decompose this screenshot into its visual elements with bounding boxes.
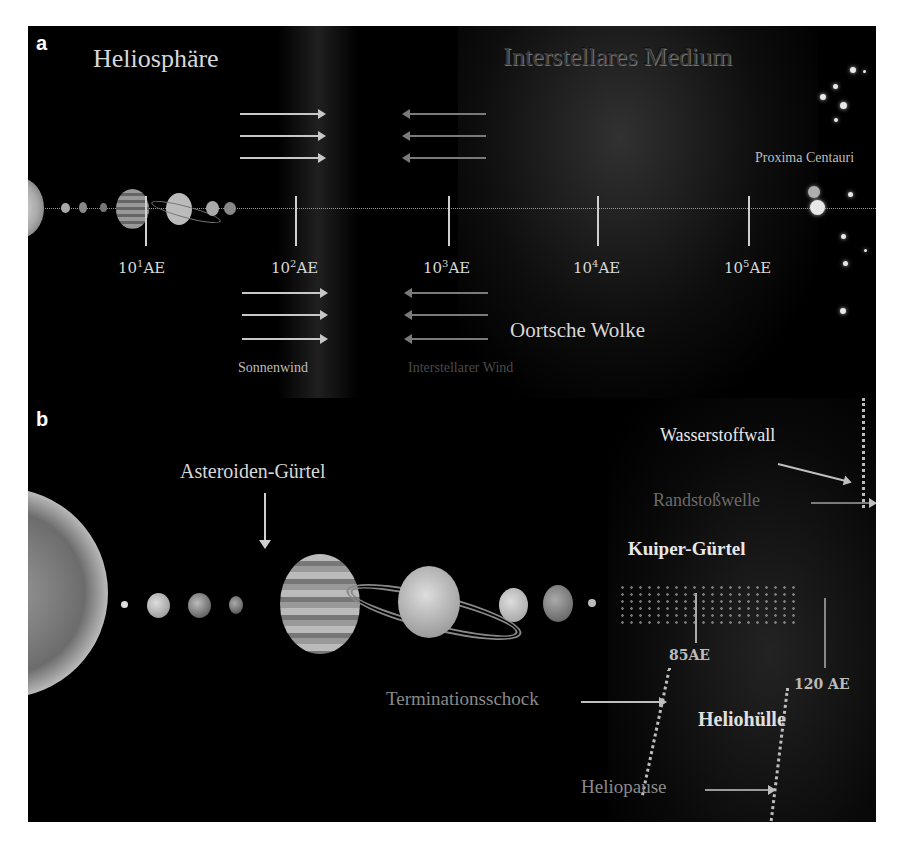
planet-neptune bbox=[224, 202, 236, 215]
interstellar-wind-arrow bbox=[408, 157, 486, 159]
tick-10-5 bbox=[748, 196, 750, 246]
star bbox=[863, 70, 866, 73]
solar-system-figure: a Heliosphäre Interstellares Medium 101A… bbox=[28, 26, 876, 822]
interstellar-medium-title: Interstellares Medium bbox=[503, 42, 732, 72]
planet-mercury bbox=[61, 203, 70, 213]
heliopause-label: Heliopause bbox=[581, 776, 666, 798]
termination-shock-label: Terminationsschock bbox=[386, 688, 539, 710]
tick-label-10-1: 101AE bbox=[118, 258, 165, 277]
star bbox=[850, 67, 856, 73]
planet-venus bbox=[79, 202, 87, 213]
alpha-centauri-star bbox=[808, 186, 820, 198]
tick-10-2 bbox=[295, 196, 297, 246]
kuiper-belt-label: Kuiper-Gürtel bbox=[628, 538, 746, 560]
proxima-centauri-star bbox=[810, 200, 825, 215]
asteroid-belt-arrow bbox=[264, 493, 266, 543]
star bbox=[848, 192, 853, 197]
star bbox=[820, 94, 826, 100]
star bbox=[843, 261, 848, 266]
planet-mars bbox=[229, 596, 243, 614]
panel-b-heliosphere-structure: b Asteroiden-Gürtel Wasserstoffwall Rand… bbox=[28, 398, 876, 822]
tick-label-10-4: 104AE bbox=[573, 258, 620, 277]
heliopause-arrow bbox=[705, 789, 770, 791]
solar-wind-arrow bbox=[240, 113, 320, 115]
planet-mercury bbox=[121, 601, 128, 608]
planet-uranus bbox=[206, 201, 219, 216]
interstellar-wind-arrow bbox=[408, 135, 486, 137]
solar-wind-arrow bbox=[242, 292, 322, 294]
panel-a-heliosphere-scale: a Heliosphäre Interstellares Medium 101A… bbox=[28, 26, 876, 398]
interstellar-wind-arrow bbox=[410, 314, 488, 316]
planet-uranus bbox=[499, 588, 528, 622]
tick-label-10-5: 105AE bbox=[724, 258, 771, 277]
interstellar-wind-arrow bbox=[410, 292, 488, 294]
star bbox=[840, 102, 847, 109]
star bbox=[834, 118, 838, 122]
distance-120-au: 120 AE bbox=[794, 676, 850, 692]
interstellar-wind-arrow bbox=[410, 338, 488, 340]
panel-letter-a: a bbox=[36, 32, 47, 55]
solar-wind-arrow bbox=[240, 135, 320, 137]
sun bbox=[28, 178, 44, 238]
termination-shock-distance-tick bbox=[695, 593, 697, 643]
heliopause-distance-tick bbox=[824, 598, 826, 668]
hydrogen-wall-label: Wasserstoffwall bbox=[660, 425, 775, 446]
interstellar-wind-label: Interstellarer Wind bbox=[408, 360, 513, 376]
oort-cloud-label: Oortsche Wolke bbox=[510, 318, 645, 343]
kuiper-belt-objects bbox=[618, 584, 798, 624]
solar-wind-arrow bbox=[242, 338, 322, 340]
distance-85-au: 85AE bbox=[669, 647, 710, 663]
interstellar-wind-arrow bbox=[408, 113, 486, 115]
star bbox=[833, 84, 838, 89]
planet-earth bbox=[188, 593, 211, 618]
bow-shock-boundary bbox=[862, 398, 865, 508]
star bbox=[840, 308, 846, 314]
heliosheath-label: Heliohülle bbox=[698, 708, 786, 731]
termination-shock-arrow bbox=[581, 701, 661, 703]
tick-label-10-2: 102AE bbox=[271, 258, 318, 277]
planet-pluto bbox=[588, 599, 596, 607]
panel-letter-b: b bbox=[36, 408, 48, 431]
interstellar-nebula bbox=[278, 26, 358, 398]
tick-label-10-3: 103AE bbox=[423, 258, 470, 277]
tick-10-4 bbox=[597, 196, 599, 246]
tick-10-3 bbox=[448, 196, 450, 246]
solar-wind-label: Sonnenwind bbox=[238, 360, 308, 376]
proxima-centauri-label: Proxima Centauri bbox=[755, 150, 854, 166]
planet-neptune bbox=[543, 585, 573, 622]
star bbox=[864, 249, 867, 252]
planet-jupiter bbox=[280, 554, 360, 654]
asteroid-belt-label: Asteroiden-Gürtel bbox=[180, 460, 326, 483]
hydrogen-wall-arrow bbox=[778, 463, 846, 482]
solar-wind-arrow bbox=[242, 314, 322, 316]
solar-wind-arrow bbox=[240, 157, 320, 159]
planet-earth bbox=[100, 203, 107, 212]
sun bbox=[28, 488, 108, 698]
heliosphere-title: Heliosphäre bbox=[93, 44, 219, 74]
planet-saturn bbox=[398, 566, 460, 638]
planet-venus bbox=[147, 593, 170, 618]
star bbox=[841, 234, 846, 239]
bow-shock-label: Randstoßwelle bbox=[653, 490, 760, 511]
tick-10-1 bbox=[145, 196, 147, 246]
